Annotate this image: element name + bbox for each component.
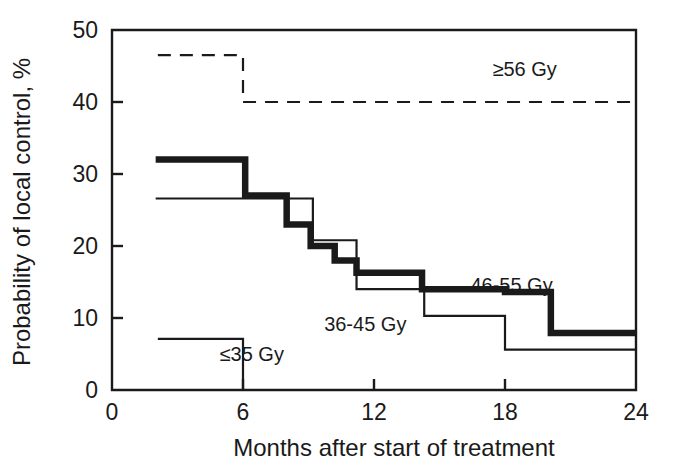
y-axis-title: Probability of local control, % bbox=[8, 58, 35, 366]
y-tick-label: 10 bbox=[72, 305, 98, 331]
x-tick-label: 0 bbox=[106, 399, 119, 425]
y-tick-label: 20 bbox=[72, 233, 98, 259]
x-axis-title: Months after start of treatment bbox=[233, 434, 555, 461]
x-tick-label: 6 bbox=[237, 399, 250, 425]
x-tick-label: 24 bbox=[623, 399, 649, 425]
series-line-46-55-gy bbox=[156, 160, 636, 334]
data-series-group bbox=[156, 55, 636, 390]
series-label-35-gy: ≤35 Gy bbox=[220, 343, 284, 365]
series-label-56-gy: ≥56 Gy bbox=[492, 58, 556, 80]
x-axis-ticks bbox=[243, 379, 505, 390]
y-tick-label: 40 bbox=[72, 89, 98, 115]
series-annotations: ≥56 Gy46-55 Gy36-45 Gy≤35 Gy bbox=[220, 58, 557, 365]
survival-chart: 01020304050 06121824 ≥56 Gy46-55 Gy36-45… bbox=[0, 0, 679, 469]
chart-page: 01020304050 06121824 ≥56 Gy46-55 Gy36-45… bbox=[0, 0, 679, 469]
x-tick-label: 12 bbox=[361, 399, 387, 425]
series-label-46-55-gy: 46-55 Gy bbox=[470, 274, 552, 296]
x-tick-label: 18 bbox=[492, 399, 518, 425]
y-axis-tick-labels: 01020304050 bbox=[72, 17, 98, 403]
y-tick-label: 50 bbox=[72, 17, 98, 43]
y-axis-ticks bbox=[112, 102, 123, 318]
x-axis-tick-labels: 06121824 bbox=[106, 399, 649, 425]
y-tick-label: 0 bbox=[85, 377, 98, 403]
series-label-36-45-gy: 36-45 Gy bbox=[324, 313, 406, 335]
y-tick-label: 30 bbox=[72, 161, 98, 187]
series-line-56-gy bbox=[158, 55, 636, 102]
